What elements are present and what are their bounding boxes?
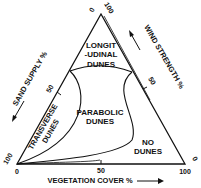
wind-strength-tick-100: 100 (103, 1, 115, 15)
vegetation-tick-0: 0 (15, 168, 19, 175)
parabolic-label-1: PARABOLIC (77, 108, 124, 117)
vegetation-axis-label: VEGETATION COVER % (47, 176, 132, 185)
sand-supply-tick-100: 100 (2, 152, 14, 166)
wind-strength-tick-50: 50 (147, 76, 157, 86)
sand-supply-tick-50: 50 (45, 84, 55, 94)
sand-supply-tick-0: 0 (88, 6, 96, 13)
vegetation-arrowhead-icon (158, 178, 164, 184)
wind-strength-arrowhead-icon (129, 30, 134, 37)
longitudinal-label-2: -UDINAL (85, 50, 118, 59)
longitudinal-label-3: DUNES (87, 60, 116, 69)
vegetation-tick-50: 50 (97, 167, 105, 174)
sand-supply-axis-label: SAND SUPPLY % (11, 50, 50, 108)
vegetation-tick-100: 100 (179, 168, 191, 175)
longitudinal-label-1: LONGIT (86, 41, 116, 50)
wind-strength-tick-0: 0 (191, 155, 199, 162)
left-mid-tick (57, 92, 61, 95)
parabolic-label-2: DUNES (86, 117, 115, 126)
ternary-diagram: LONGIT -UDINAL DUNES PARABOLIC DUNES NO … (0, 0, 201, 188)
wind-strength-arrow (131, 34, 140, 50)
sand-supply-arrowhead-icon (12, 115, 17, 122)
no-dunes-label-1: NO (142, 138, 154, 147)
no-dunes-label-2: DUNES (134, 147, 163, 156)
